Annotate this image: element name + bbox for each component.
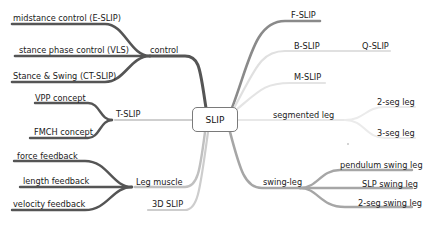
node-midstance-control[interactable]: midstance control (E-SLIP): [13, 13, 121, 23]
node-vpp-concept[interactable]: VPP concept: [35, 93, 86, 103]
node-t-slip[interactable]: T-SLIP: [116, 109, 140, 119]
node-2-seg-swing-leg[interactable]: 2-seg swing leg: [358, 198, 422, 208]
node-fmch-concept[interactable]: FMCH concept: [34, 127, 93, 137]
node-m-slip[interactable]: M-SLIP: [294, 72, 321, 82]
node-stance-phase-control[interactable]: stance phase control (VLS): [19, 45, 129, 55]
node-control[interactable]: control: [150, 45, 178, 55]
node-3d-slip[interactable]: 3D SLIP: [152, 199, 183, 209]
node-b-slip[interactable]: B-SLIP: [294, 41, 320, 51]
node-2-seg-leg[interactable]: 2-seg leg: [377, 97, 415, 107]
node-force-feedback[interactable]: force feedback: [17, 151, 78, 161]
node-velocity-feedback[interactable]: velocity feedback: [13, 199, 85, 209]
stray-dot: [347, 143, 348, 144]
node-stance-swing[interactable]: Stance & Swing (CT-SLIP): [13, 71, 116, 81]
node-segmented-leg[interactable]: segmented leg: [273, 110, 334, 120]
center-label: SLIP: [206, 115, 225, 125]
node-leg-muscle[interactable]: Leg muscle: [136, 177, 183, 187]
node-slp-swing-leg[interactable]: SLP swing leg: [362, 179, 418, 189]
node-q-slip[interactable]: Q-SLIP: [362, 41, 389, 51]
node-pendulum-swing-leg[interactable]: pendulum swing leg: [340, 160, 423, 170]
center-node[interactable]: SLIP: [192, 107, 238, 132]
node-length-feedback[interactable]: length feedback: [23, 176, 89, 186]
node-f-slip[interactable]: F-SLIP: [291, 10, 316, 20]
node-3-seg-leg[interactable]: 3-seg leg: [377, 128, 415, 138]
node-swing-leg[interactable]: swing-leg: [263, 177, 302, 187]
